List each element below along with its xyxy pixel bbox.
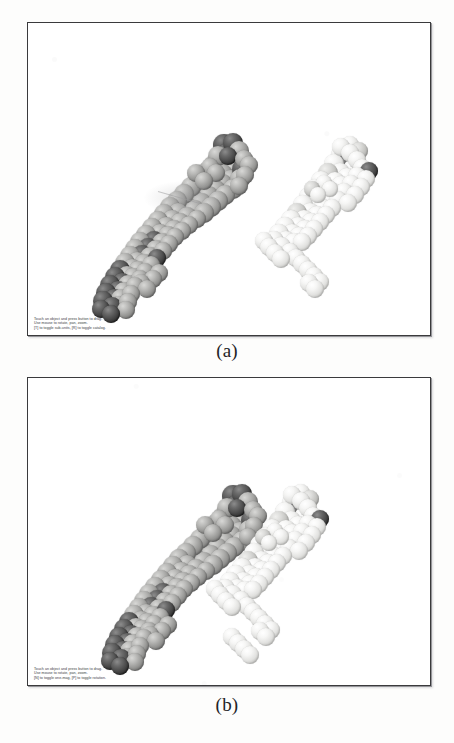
figure-container: Touch an object and press button to drag…: [0, 0, 454, 743]
molecule-viewport-b[interactable]: Touch an object and press button to drag…: [27, 377, 431, 686]
molecule-viewport-a[interactable]: Touch an object and press button to drag…: [27, 22, 431, 336]
atom-sphere-ligand[interactable]: [241, 646, 259, 664]
atom-sphere-receptor[interactable]: [111, 657, 129, 675]
atom-sphere-ligand[interactable]: [257, 628, 275, 646]
atom-sphere-receptor[interactable]: [204, 524, 222, 542]
hud-instructions-b: Touch an object and press button to drag…: [34, 667, 106, 680]
molecular-scene-b[interactable]: [28, 378, 430, 685]
atom-sphere-receptor[interactable]: [230, 177, 248, 195]
atom-sphere-ligand[interactable]: [310, 187, 326, 203]
caption-a: (a): [0, 340, 454, 362]
molecular-scene-a[interactable]: [28, 23, 430, 335]
caption-b: (b): [0, 694, 454, 716]
atom-sphere-ligand[interactable]: [306, 280, 324, 298]
hud-line-3: [T] to toggle sub-units, [R] to toggle c…: [34, 326, 106, 330]
atom-sphere-ligand[interactable]: [290, 542, 308, 560]
atom-sphere-ligand[interactable]: [223, 598, 241, 616]
atom-sphere-receptor[interactable]: [147, 632, 165, 650]
hud-line-3: [N] to toggle one-mag, [P] to toggle rot…: [34, 676, 106, 680]
hud-instructions-a: Touch an object and press button to drag…: [34, 317, 106, 330]
atom-sphere-ligand[interactable]: [272, 250, 290, 268]
atom-sphere-receptor[interactable]: [138, 280, 156, 298]
atom-sphere-ligand[interactable]: [261, 535, 277, 551]
atom-sphere-ligand[interactable]: [339, 194, 357, 212]
